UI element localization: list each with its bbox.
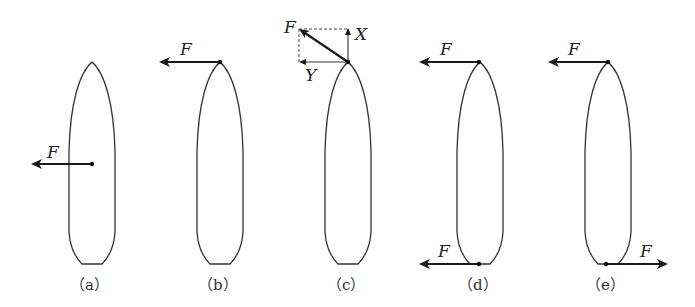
panel-e: F F （e） [548,39,668,294]
bow-force-label: F [439,39,453,59]
panel-b: F （b） [159,39,243,294]
force-label: F [179,39,193,59]
force-arrow [305,33,348,62]
force-label: F [283,17,297,37]
panel-c: F X Y （c） [283,17,371,294]
panel-caption: （c） [327,276,365,294]
hull-outline [325,62,371,264]
panel-caption: （e） [586,276,625,294]
panel-a: F （a） [31,62,115,294]
arrowhead-icon [299,29,310,38]
hull-outline [457,62,503,264]
hull-outline [585,62,631,264]
force-label: F [46,142,60,162]
x-component-label: X [353,24,368,44]
bow-force-label: F [567,39,581,59]
stern-force-label: F [639,241,653,261]
application-point [606,60,610,64]
panel-caption: （a） [70,276,109,294]
application-point [218,60,222,64]
application-point [477,60,481,64]
y-component-label: Y [305,65,318,85]
application-point [604,262,608,266]
application-point [477,262,481,266]
panel-d: F F （d） [419,39,503,294]
hull-outline [197,62,243,264]
hull-force-diagram: F （a） F （b） F X Y （c） F [0,0,695,307]
application-point [90,162,94,166]
panel-caption: （b） [198,276,238,294]
panel-caption: （d） [458,276,498,294]
application-point [346,60,350,64]
stern-force-label: F [437,241,451,261]
